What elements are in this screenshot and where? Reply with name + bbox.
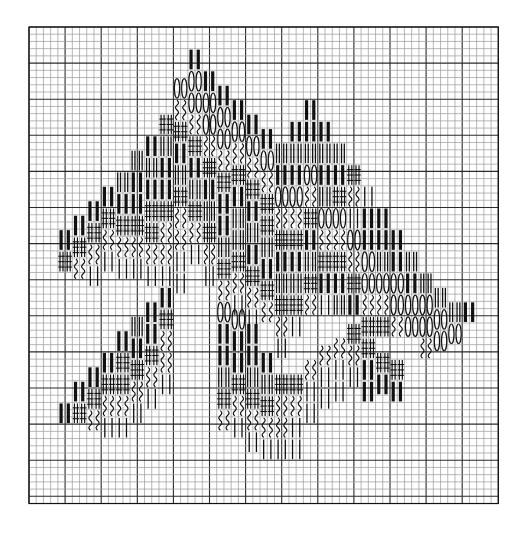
wavy-stitch-icon: [139, 237, 142, 257]
wavy-stitch-icon: [327, 230, 330, 250]
wavy-stitch-icon: [125, 237, 128, 257]
wavy-stitch-icon: [212, 245, 215, 265]
solid-bar-stitch-icon: [312, 100, 315, 120]
solid-bar-stitch-icon: [146, 324, 149, 344]
wavy-stitch-icon: [168, 245, 171, 265]
wavy-stitch-icon: [82, 259, 85, 279]
wavy-stitch-icon: [277, 396, 280, 416]
double-bar-stitch-icon: [269, 237, 273, 257]
solid-bar-stitch-icon: [153, 180, 156, 200]
solid-bar-stitch-icon: [153, 324, 156, 344]
wavy-stitch-icon: [428, 338, 431, 358]
hash-stitch-icon: [203, 158, 209, 178]
hash-stitch-icon: [145, 223, 151, 243]
hash-stitch-icon: [73, 237, 79, 257]
wavy-stitch-icon: [313, 295, 316, 315]
double-bar-stitch-icon: [204, 201, 208, 221]
double-bar-stitch-icon: [276, 273, 280, 293]
solid-bar-stitch-icon: [96, 367, 99, 387]
hash-stitch-icon: [268, 396, 274, 416]
solid-bar-stitch-icon: [161, 288, 164, 308]
double-bar-stitch-icon: [168, 136, 172, 156]
hash-stitch-icon: [174, 187, 180, 207]
hash-stitch-icon: [311, 209, 317, 229]
wavy-stitch-icon: [139, 382, 142, 402]
solid-bar-stitch-icon: [269, 353, 272, 373]
wavy-stitch-icon: [103, 230, 106, 250]
wavy-stitch-icon: [204, 136, 207, 156]
solid-bar-stitch-icon: [276, 252, 279, 272]
oval-stitch-icon: [254, 136, 259, 156]
solid-bar-stitch-icon: [168, 288, 171, 308]
hash-stitch-icon: [268, 194, 274, 214]
wavy-stitch-icon: [111, 396, 114, 416]
hash-stitch-icon: [369, 338, 375, 358]
wavy-stitch-icon: [262, 418, 265, 438]
solid-bar-stitch-icon: [161, 158, 164, 178]
stitch-grid: [0, 0, 526, 534]
oval-stitch-icon: [218, 107, 223, 127]
wavy-stitch-icon: [356, 346, 359, 366]
hash-stitch-icon: [260, 216, 266, 236]
solid-bar-stitch-icon: [226, 216, 229, 236]
oval-stitch-icon: [225, 302, 230, 322]
oval-stitch-icon: [232, 122, 237, 142]
oval-stitch-icon: [355, 230, 360, 250]
hash-stitch-icon: [347, 324, 353, 344]
solid-bar-stitch-icon: [305, 230, 308, 250]
wavy-stitch-icon: [284, 418, 287, 438]
double-bar-stitch-icon: [283, 273, 287, 293]
solid-bar-stitch-icon: [348, 295, 351, 315]
hash-stitch-icon: [304, 273, 310, 293]
solid-bar-stitch-icon: [132, 338, 135, 358]
solid-bar-stitch-icon: [218, 346, 221, 366]
hash-stitch-icon: [246, 266, 252, 286]
double-bar-stitch-icon: [247, 367, 251, 387]
wavy-stitch-icon: [161, 245, 164, 265]
solid-bar-stitch-icon: [319, 122, 322, 142]
wavy-stitch-icon: [305, 360, 308, 380]
wavy-stitch-icon: [385, 295, 388, 315]
hash-stitch-icon: [102, 209, 108, 229]
hash-stitch-icon: [369, 317, 375, 337]
hash-stitch-icon: [282, 375, 288, 395]
solid-bar-stitch-icon: [117, 331, 120, 351]
hash-stitch-icon: [224, 259, 230, 279]
hash-stitch-icon: [224, 172, 230, 192]
hash-stitch-icon: [130, 216, 136, 236]
hash-stitch-icon: [383, 317, 389, 337]
hash-stitch-icon: [297, 375, 303, 395]
wavy-stitch-icon: [111, 230, 114, 250]
wavy-stitch-icon: [277, 317, 280, 337]
solid-bar-stitch-icon: [139, 194, 142, 214]
wavy-stitch-icon: [233, 396, 236, 416]
oval-stitch-icon: [261, 151, 266, 171]
hash-stitch-icon: [376, 353, 382, 373]
wavy-stitch-icon: [349, 252, 352, 272]
wavy-stitch-icon: [284, 396, 287, 416]
hash-stitch-icon: [311, 273, 317, 293]
hash-stitch-icon: [109, 209, 115, 229]
wavy-stitch-icon: [212, 136, 215, 156]
oval-stitch-icon: [398, 295, 403, 315]
hash-stitch-icon: [354, 324, 360, 344]
wavy-stitch-icon: [219, 151, 222, 171]
solid-bar-stitch-icon: [305, 100, 308, 120]
double-bar-stitch-icon: [233, 230, 237, 250]
solid-bar-stitch-icon: [218, 324, 221, 344]
hash-stitch-icon: [138, 360, 144, 380]
hash-stitch-icon: [116, 375, 122, 395]
oval-stitch-icon: [427, 317, 432, 337]
double-bar-stitch-icon: [153, 158, 157, 178]
hash-stitch-icon: [333, 252, 339, 272]
hash-stitch-icon: [109, 375, 115, 395]
hash-stitch-icon: [152, 346, 158, 366]
solid-bar-stitch-icon: [132, 194, 135, 214]
solid-bar-stitch-icon: [254, 346, 257, 366]
oval-stitch-icon: [203, 93, 208, 113]
hash-stitch-icon: [354, 165, 360, 185]
wavy-stitch-icon: [342, 338, 345, 358]
hash-stitch-icon: [138, 216, 144, 236]
wavy-stitch-icon: [226, 411, 229, 431]
oval-stitch-icon: [449, 324, 454, 344]
